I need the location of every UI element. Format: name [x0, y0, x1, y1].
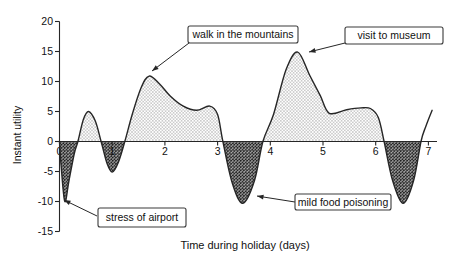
y-tick-label: 20 — [41, 15, 53, 27]
annotation-label: stress of airport — [106, 211, 178, 223]
utility-chart-svg: 0123456720151050-5-10-151walk in the mou… — [0, 0, 475, 262]
annotation: stress of airport — [64, 200, 186, 227]
annotation: walk in the mountains — [152, 26, 298, 71]
y-tick-label: 5 — [47, 105, 53, 117]
annotation-label: mild food poisoning — [298, 196, 389, 208]
annotation-arrowhead — [64, 200, 71, 205]
annotation: visit to museum — [309, 27, 443, 53]
x-tick-label: 6 — [373, 145, 379, 157]
x-tick-label: 7 — [425, 145, 431, 157]
annotation-arrowhead — [309, 48, 316, 53]
y-tick-label: -15 — [38, 225, 53, 237]
annotation-arrow-line — [152, 43, 189, 71]
x-tick-label: 4 — [267, 145, 273, 157]
annotation-label: walk in the mountains — [192, 28, 294, 40]
y-tick-label: 15 — [41, 45, 53, 57]
annotation-label: visit to museum — [358, 29, 431, 41]
annotation: mild food poisoning — [257, 194, 391, 210]
annotation-arrowhead — [257, 195, 264, 200]
y-tick-label: 10 — [41, 75, 53, 87]
y-tick-label: 0 — [47, 135, 53, 147]
x-tick-label: 2 — [162, 145, 168, 157]
annotation-arrowhead — [152, 65, 159, 71]
x-tick-label-covered: 1 — [109, 145, 115, 157]
y-tick-label: -10 — [38, 195, 53, 207]
y-tick-label: -5 — [44, 165, 53, 177]
y-tick-labels: 20151050-5-10-15 — [38, 15, 53, 237]
utility-figure: 0123456720151050-5-10-151walk in the mou… — [0, 0, 475, 262]
x-tick-label: 5 — [320, 145, 326, 157]
x-tick-label: 3 — [215, 145, 221, 157]
y-axis-title: Instant utility — [11, 106, 23, 164]
x-axis-title: Time during holiday (days) — [180, 239, 309, 251]
